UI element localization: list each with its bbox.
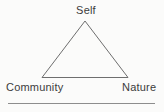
node-label-self: Self [0, 4, 164, 16]
diagram-canvas: Self Community Nature [0, 0, 164, 112]
triangle-shape [0, 0, 164, 112]
node-label-community: Community [6, 81, 63, 93]
bottom-divider [8, 103, 155, 104]
triangle-outline-icon [42, 21, 128, 78]
node-label-nature: Nature [122, 81, 156, 93]
